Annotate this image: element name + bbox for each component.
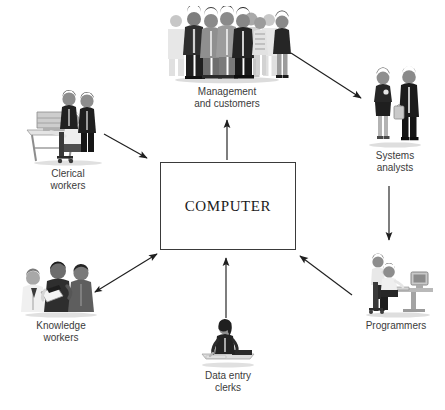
node-knowledge-workers-label: Knowledge workers — [36, 320, 85, 343]
node-systems-analysts-label: Systems analysts — [376, 150, 414, 173]
node-data-entry-clerks-label: Data entry clerks — [205, 370, 251, 393]
arrow-programmers-to-computer — [300, 256, 352, 295]
node-programmers-label: Programmers — [366, 320, 427, 332]
computer-box-label: COMPUTER — [185, 198, 271, 215]
node-programmers: Programmers — [347, 252, 445, 332]
node-clerical-workers-label: Clerical workers — [50, 168, 85, 191]
node-clerical-workers: Clerical workers — [18, 86, 118, 191]
node-systems-analysts: Systems analysts — [352, 66, 438, 173]
knowledge-workers-art — [15, 256, 107, 318]
data-entry-clerks-art — [192, 316, 264, 368]
clerical-workers-art — [23, 86, 113, 166]
node-management: Management and customers — [160, 6, 294, 109]
diagram-canvas: COMPUTER — [0, 0, 445, 410]
systems-analysts-art — [359, 66, 431, 148]
computer-box: COMPUTER — [160, 162, 296, 250]
node-knowledge-workers: Knowledge workers — [9, 256, 113, 343]
node-data-entry-clerks: Data entry clerks — [182, 316, 274, 393]
node-management-label: Management and customers — [194, 86, 260, 109]
arrow-management-to-analysts — [291, 53, 361, 98]
management-group-art — [163, 6, 291, 84]
programmers-art — [353, 252, 439, 318]
